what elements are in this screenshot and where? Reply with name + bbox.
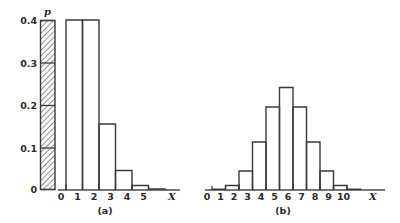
x-tick-label-b-6: 6 <box>285 191 292 202</box>
x-tick-label-b-1: 1 <box>217 191 224 202</box>
x-axis-name-a: X <box>167 191 177 202</box>
x-tick-label-b-2: 2 <box>231 191 238 202</box>
bar-a-2 <box>99 124 116 190</box>
x-tick-label-b-10: 10 <box>337 191 351 202</box>
bar-b-5 <box>280 88 294 191</box>
panel-b: 0 1 2 3 4 5 6 7 8 9 10 X (b) <box>204 88 385 217</box>
x-tick-label-a-2: 2 <box>91 191 98 202</box>
bar-a-3 <box>116 171 133 191</box>
bar-b-4 <box>266 107 280 190</box>
bar-b-8 <box>320 171 334 190</box>
caption-b: (b) <box>275 205 290 216</box>
x-tick-label-a-1: 1 <box>74 191 81 202</box>
bar-b-7 <box>307 142 321 190</box>
x-tick-label-b-0: 0 <box>204 191 211 202</box>
x-axis-name-b: X <box>368 191 378 202</box>
figure-canvas: 0.4 0.3 0.2 0.1 0 p 0 1 <box>0 0 400 223</box>
y-tick-label-0.3: 0.3 <box>20 58 37 69</box>
x-tick-label-b-7: 7 <box>298 191 305 202</box>
x-tick-label-a-5: 5 <box>140 191 147 202</box>
bar-b-6 <box>293 107 307 190</box>
bar-b-10 <box>347 189 361 190</box>
y-tick-label-0.2: 0.2 <box>20 100 37 111</box>
panel-a: 0.4 0.3 0.2 0.1 0 p 0 1 <box>20 6 180 216</box>
x-tick-label-b-4: 4 <box>258 191 265 202</box>
x-tick-label-b-3: 3 <box>244 191 251 202</box>
y-tick-label-0: 0 <box>30 184 37 195</box>
statistics-figure: 0.4 0.3 0.2 0.1 0 p 0 1 <box>0 0 400 223</box>
bar-b-2 <box>239 171 253 190</box>
x-tick-label-a-4: 4 <box>124 191 131 202</box>
bar-a-0 <box>66 20 83 190</box>
x-tick-label-b-5: 5 <box>271 191 278 202</box>
x-tick-label-a-3: 3 <box>107 191 114 202</box>
x-tick-label-b-9: 9 <box>325 191 332 202</box>
bar-b-3 <box>253 142 267 190</box>
x-tick-label-a-0: 0 <box>58 191 65 202</box>
y-tick-label-0.1: 0.1 <box>20 143 37 154</box>
bar-a-1 <box>83 20 100 190</box>
y-tick-label-0.4: 0.4 <box>20 15 37 26</box>
bar-b-0 <box>212 189 226 190</box>
caption-a: (a) <box>97 205 112 216</box>
y-axis-name-a: p <box>44 6 51 17</box>
x-tick-label-b-8: 8 <box>312 191 319 202</box>
